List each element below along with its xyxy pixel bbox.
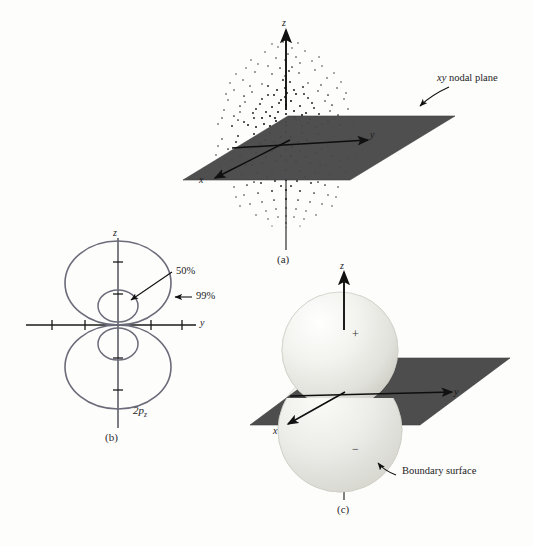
panel-b-caption: (b) (105, 432, 118, 443)
xy-nodal-plane-a (183, 116, 455, 180)
lobe-positive-sign: + (352, 328, 359, 340)
panel-a-y-axis-label: y (370, 130, 374, 140)
panel-b-orbital-label-main: 2p (133, 404, 144, 416)
panel-b-z-axis-label: z (113, 228, 117, 238)
contour-99-label: 99% (196, 291, 215, 302)
xy-nodal-plane-label-italic: xy (437, 72, 446, 83)
panel-b-orbital-label: 2pz (133, 405, 147, 419)
panel-c-y-axis-label: y (454, 387, 458, 397)
panel-a-graphic (183, 30, 455, 250)
lobe-negative-sign: − (352, 443, 359, 455)
xy-nodal-plane-label: xy nodal plane (437, 73, 498, 84)
figure-2pz-orbital: z y x xy nodal plane (a) z y 50% 99% 2pz… (0, 0, 533, 546)
panel-c-z-axis-label: z (340, 261, 344, 271)
panel-b-y-axis-label: y (200, 318, 204, 328)
panel-a-caption: (a) (277, 254, 289, 265)
panel-a-x-axis-label: x (199, 175, 203, 185)
panel-c-caption: (c) (337, 504, 349, 515)
panel-b-orbital-label-sub: z (144, 410, 147, 419)
panel-a-z-axis-label: z (282, 18, 286, 28)
contour-50-label: 50% (176, 266, 195, 277)
xy-nodal-plane-label-rest: nodal plane (446, 72, 497, 83)
panel-b-graphic (26, 238, 196, 428)
boundary-surface-label: Boundary surface (402, 466, 476, 477)
panel-c-x-axis-label: x (273, 426, 277, 436)
